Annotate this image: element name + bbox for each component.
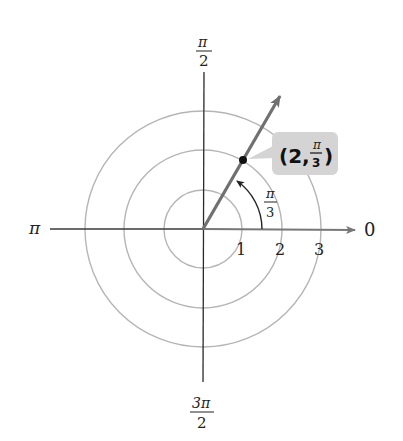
angle-label-right: 0 — [364, 219, 375, 240]
point-label-suffix: ) — [324, 144, 333, 168]
angle-marker-num: π — [265, 186, 275, 201]
point-label-num: π — [312, 138, 322, 152]
radius-label-1: 1 — [236, 240, 246, 259]
angle-label-top-num: π — [197, 34, 208, 50]
point-label-den: 3 — [312, 156, 320, 170]
angle-marker-den: 3 — [266, 205, 274, 220]
angle-label-top: π 2 — [196, 34, 212, 70]
angle-label-bottom: 3π 2 — [190, 395, 214, 432]
angle-label-bottom-den: 2 — [197, 414, 207, 432]
point-marker — [239, 156, 247, 164]
point-label-prefix: (2, — [279, 144, 310, 168]
angle-label-bottom-num: 3π — [192, 395, 211, 411]
radius-label-2: 2 — [275, 240, 285, 259]
radius-labels: 1 2 3 — [236, 240, 324, 259]
polar-diagram: (2, π 3 ) π 3 π 2 π 0 3π 2 1 2 3 — [0, 0, 403, 441]
polar-axis — [203, 229, 355, 230]
angle-marker-label: π 3 — [264, 186, 277, 220]
angle-label-left: π — [28, 218, 41, 238]
radius-label-3: 3 — [314, 240, 324, 259]
angle-label-top-den: 2 — [199, 52, 209, 70]
